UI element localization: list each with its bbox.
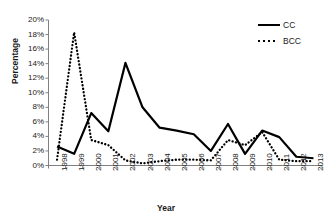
line-chart: Percentage 0%2%4%6%8%10%12%14%16%18%20% … [0, 0, 332, 218]
legend-item-cc: CC [258, 17, 301, 33]
x-axis-tick-label: 2010 [266, 153, 274, 171]
chart-legend: CC BCC [258, 17, 301, 49]
legend-label-cc: CC [283, 20, 295, 30]
legend-item-bcc: BCC [258, 33, 301, 49]
x-axis-tick-label: 2002 [129, 153, 137, 171]
x-axis-tick-label: 2000 [95, 153, 103, 171]
x-axis-title: Year [0, 203, 332, 213]
x-axis-tick-label: 1999 [78, 153, 86, 171]
x-axis-tick-label: 2004 [164, 153, 172, 171]
x-axis-tick-label: 2001 [112, 153, 120, 171]
legend-label-bcc: BCC [283, 36, 301, 46]
x-axis-tick-label: 2011 [283, 153, 291, 170]
x-axis-tick-label: 2013 [317, 153, 325, 171]
x-axis-tick-label: 2005 [181, 153, 189, 171]
legend-swatch-dotted-icon [258, 36, 280, 46]
x-axis-tick-label: 2003 [147, 153, 155, 171]
x-axis-tick-label: 2008 [232, 153, 240, 171]
x-axis-tick-label: 1998 [61, 153, 69, 171]
x-axis-tick-label: 2012 [300, 153, 308, 171]
x-axis-tick-label: 2007 [215, 153, 223, 171]
x-axis-tick-label: 2009 [249, 153, 257, 171]
legend-swatch-solid-icon [258, 20, 280, 30]
x-axis-tick-label: 2006 [198, 153, 206, 171]
